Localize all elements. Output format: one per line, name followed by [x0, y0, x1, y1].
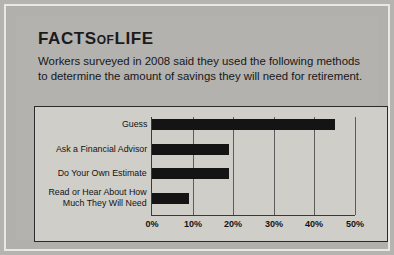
- chart-row: Guess: [152, 117, 355, 142]
- title-word-life: LIFE: [114, 29, 153, 48]
- category-label-line: Guess: [121, 118, 147, 129]
- intro-text: Workers surveyed in 2008 said they used …: [38, 54, 390, 83]
- category-label-4: Read or Hear About HowMuch They Will Nee…: [49, 186, 147, 208]
- x-tick-label: 20%: [224, 218, 242, 229]
- x-tick-label: 10%: [184, 218, 202, 229]
- bar-3: [152, 168, 229, 179]
- category-label-2: Ask a Financial Advisor: [56, 143, 147, 154]
- category-label-line: Ask a Financial Advisor: [56, 143, 147, 154]
- page-title: FACTSOFLIFE: [38, 30, 154, 47]
- outer-frame: FACTSOFLIFE Workers surveyed in 2008 sai…: [4, 4, 390, 251]
- intro-line-1: Workers surveyed in 2008 said they used …: [38, 54, 390, 69]
- category-label-line: Do Your Own Estimate: [58, 167, 147, 178]
- title-word-facts: FACTS: [38, 29, 97, 48]
- title-word-of: OF: [97, 33, 115, 47]
- x-tick-label: 30%: [265, 218, 283, 229]
- bar-2: [152, 144, 229, 155]
- chart-row: Ask a Financial Advisor: [152, 142, 355, 167]
- bar-chart-plot-area: GuessAsk a Financial AdvisorDo Your Own …: [151, 117, 355, 216]
- bar-1: [152, 119, 335, 130]
- chart-row: Do Your Own Estimate: [152, 166, 355, 191]
- category-label-1: Guess: [121, 118, 147, 129]
- intro-line-2: to determine the amount of savings they …: [38, 69, 390, 84]
- category-label-line: Read or Hear About How: [49, 186, 147, 197]
- x-tick-label: 50%: [346, 218, 364, 229]
- x-tick-label: 0%: [145, 218, 158, 229]
- x-tick-label: 40%: [305, 218, 323, 229]
- facts-of-life-panel: FACTSOFLIFE Workers surveyed in 2008 sai…: [16, 16, 378, 240]
- chart-panel: GuessAsk a Financial AdvisorDo Your Own …: [34, 106, 388, 242]
- category-label-3: Do Your Own Estimate: [58, 167, 147, 178]
- page-root: FACTSOFLIFE Workers surveyed in 2008 sai…: [0, 0, 394, 255]
- bar-4: [152, 193, 189, 204]
- category-label-line: Much They Will Need: [49, 197, 147, 208]
- gridline-50: [355, 117, 356, 215]
- chart-row: Read or Hear About HowMuch They Will Nee…: [152, 191, 355, 216]
